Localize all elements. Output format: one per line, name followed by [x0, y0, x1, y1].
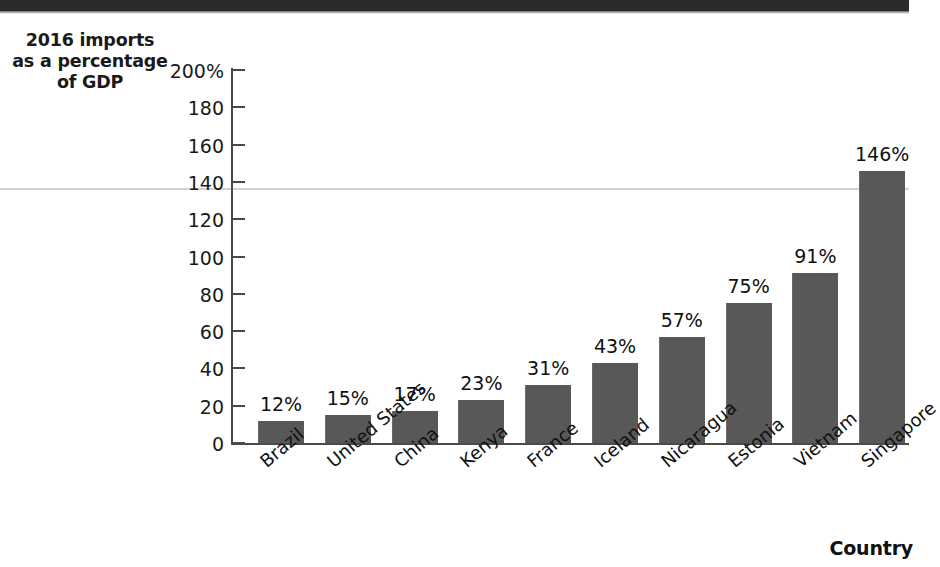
y-tick-label: 60 — [148, 321, 224, 343]
bar-value-label: 31% — [508, 359, 588, 378]
bar-value-label: 43% — [575, 337, 655, 356]
y-tick-mark — [233, 69, 245, 71]
bar-value-label: 91% — [775, 247, 855, 266]
y-tick-label: 20 — [148, 396, 224, 418]
y-tick-label: 0 — [148, 433, 224, 455]
bar — [792, 273, 838, 443]
bar — [859, 171, 905, 443]
y-tick-label: 160 — [148, 135, 224, 157]
bar-value-label: 57% — [642, 311, 722, 330]
y-tick-mark — [233, 330, 245, 332]
y-tick-mark — [233, 181, 245, 183]
y-tick-mark — [233, 256, 245, 258]
y-tick-mark — [233, 106, 245, 108]
x-axis-title: Country — [830, 537, 914, 559]
y-tick-mark — [233, 218, 245, 220]
y-tick-label: 40 — [148, 358, 224, 380]
y-tick-label: 80 — [148, 284, 224, 306]
y-tick-label: 200% — [148, 60, 224, 82]
bar-value-label: 146% — [842, 145, 922, 164]
y-tick-label: 120 — [148, 209, 224, 231]
y-tick-label: 180 — [148, 97, 224, 119]
y-tick-label: 100 — [148, 247, 224, 269]
y-tick-mark — [233, 144, 245, 146]
y-tick-label: 140 — [148, 172, 224, 194]
y-tick-mark — [233, 293, 245, 295]
y-tick-mark — [233, 367, 245, 369]
y-tick-mark — [233, 442, 245, 444]
bar-value-label: 75% — [709, 277, 789, 296]
